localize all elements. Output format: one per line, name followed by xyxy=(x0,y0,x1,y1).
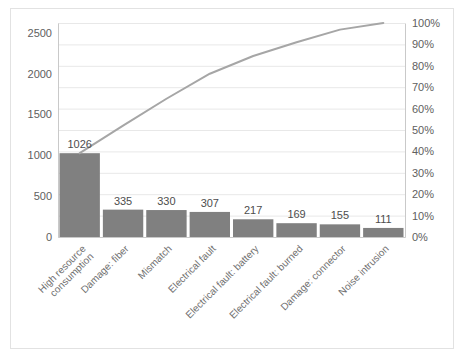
bar xyxy=(233,219,273,237)
secondary-y-axis-tick-label: 70% xyxy=(412,82,460,93)
y-axis-tick-label: 2500 xyxy=(8,28,52,39)
y-axis-tick-label: 2000 xyxy=(8,69,52,80)
y-axis-tick-label: 1500 xyxy=(8,109,52,120)
y-axis-tick-label: 1000 xyxy=(8,150,52,161)
secondary-y-axis-tick-label: 60% xyxy=(412,104,460,115)
secondary-y-axis-tick-label: 40% xyxy=(412,146,460,157)
bar xyxy=(320,224,360,237)
bar-value-label: 1026 xyxy=(50,139,110,150)
secondary-y-axis-tick-label: 50% xyxy=(412,125,460,136)
bar xyxy=(103,210,143,237)
secondary-y-axis-tick-label: 20% xyxy=(412,189,460,200)
secondary-y-axis-tick-label: 80% xyxy=(412,61,460,72)
bar xyxy=(276,223,316,237)
secondary-y-axis-tick-label: 100% xyxy=(412,18,460,29)
y-axis-tick-label: 0 xyxy=(8,232,52,243)
secondary-y-axis-tick-label: 90% xyxy=(412,39,460,50)
bar-value-label: 111 xyxy=(353,214,413,225)
secondary-y-axis-tick-label: 0% xyxy=(412,232,460,243)
secondary-y-axis-tick-label: 10% xyxy=(412,211,460,222)
bar xyxy=(363,228,403,237)
bar xyxy=(146,210,186,237)
secondary-y-axis-tick-label: 30% xyxy=(412,168,460,179)
y-axis-tick-label: 500 xyxy=(8,191,52,202)
